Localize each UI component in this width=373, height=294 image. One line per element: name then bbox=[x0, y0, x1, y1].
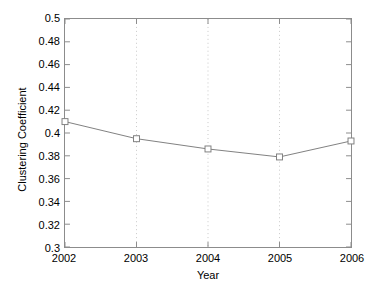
y-tick-label: 0.4 bbox=[2, 128, 60, 139]
y-tick-label: 0.46 bbox=[2, 59, 60, 70]
y-tick-label: 0.44 bbox=[2, 82, 60, 93]
data-point-marker bbox=[205, 146, 211, 152]
y-axis-title: Clustering Coefficient bbox=[16, 75, 29, 205]
x-tick-label: 2003 bbox=[124, 252, 148, 265]
plot-area bbox=[64, 18, 352, 248]
x-axis-tick-labels: 20022003200420052006 bbox=[64, 252, 352, 268]
y-tick-label: 0.5 bbox=[2, 13, 60, 24]
y-tick-label: 0.36 bbox=[2, 174, 60, 185]
data-point-marker bbox=[134, 136, 140, 142]
x-tick-label: 2002 bbox=[52, 252, 76, 265]
y-tick-label: 0.38 bbox=[2, 151, 60, 162]
y-tick-label: 0.48 bbox=[2, 36, 60, 47]
y-tick-label: 0.34 bbox=[2, 197, 60, 208]
data-point-marker bbox=[62, 119, 68, 125]
data-point-marker bbox=[277, 154, 283, 160]
x-tick-label: 2004 bbox=[196, 252, 220, 265]
data-point-marker bbox=[348, 138, 354, 144]
chart-figure: 0.50.480.460.440.420.40.380.360.340.320.… bbox=[0, 0, 373, 294]
y-axis-tick-labels: 0.50.480.460.440.420.40.380.360.340.320.… bbox=[0, 18, 60, 248]
x-tick-label: 2006 bbox=[340, 252, 364, 265]
x-tick-label: 2005 bbox=[268, 252, 292, 265]
x-axis-title: Year bbox=[64, 269, 352, 282]
y-tick-label: 0.42 bbox=[2, 105, 60, 116]
y-tick-label: 0.32 bbox=[2, 220, 60, 231]
data-series-line bbox=[65, 19, 351, 247]
